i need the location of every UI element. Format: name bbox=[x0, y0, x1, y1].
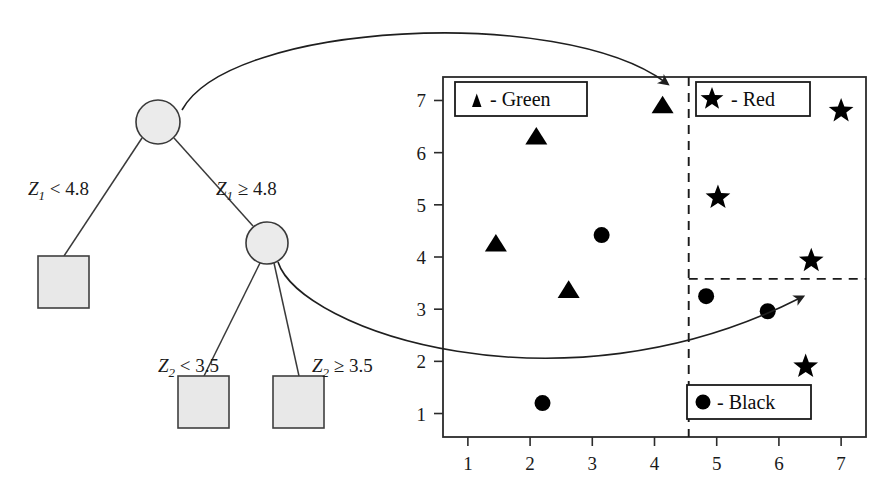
tree-leaves bbox=[38, 256, 324, 428]
figure-container: Z1 < 4.8 Z1 ≥ 4.8 Z2 < 3.5 Z2 ≥ 3.5 1234… bbox=[0, 0, 890, 497]
y-tick-label: 1 bbox=[417, 404, 427, 425]
x-axis-tick-labels: 1234567 bbox=[463, 453, 846, 474]
y-axis-tick-labels: 1234567 bbox=[417, 90, 427, 424]
x-tick-label: 5 bbox=[712, 453, 722, 474]
legend-green: - Green bbox=[455, 82, 587, 116]
point-star bbox=[829, 98, 854, 122]
circle-icon bbox=[696, 395, 711, 410]
y-tick-label: 4 bbox=[417, 247, 427, 268]
y-axis-ticks bbox=[434, 100, 443, 413]
legend-black-label: - Black bbox=[717, 391, 775, 413]
x-tick-label: 3 bbox=[588, 453, 598, 474]
legend-red-label: - Red bbox=[731, 88, 775, 110]
tree-leaf-green[interactable] bbox=[38, 256, 89, 308]
y-tick-label: 3 bbox=[417, 299, 427, 320]
point-triangle bbox=[558, 280, 580, 298]
point-triangle bbox=[525, 127, 547, 145]
legend-green-label: - Green bbox=[490, 88, 551, 110]
y-tick-label: 2 bbox=[417, 351, 427, 372]
tree-node-root[interactable] bbox=[136, 100, 180, 144]
x-axis-ticks bbox=[468, 437, 841, 446]
y-tick-label: 5 bbox=[417, 195, 427, 216]
x-tick-label: 2 bbox=[525, 453, 535, 474]
legend-black: - Black bbox=[687, 385, 811, 419]
tree-leaf-black[interactable] bbox=[178, 376, 229, 428]
decision-boundary-lines bbox=[689, 77, 866, 437]
point-circle bbox=[698, 288, 714, 304]
legend-red: - Red bbox=[696, 82, 810, 116]
x-tick-label: 6 bbox=[774, 453, 784, 474]
y-tick-label: 6 bbox=[417, 143, 427, 164]
data-point-markers bbox=[485, 96, 854, 411]
branch-label-root-right: Z1 ≥ 4.8 bbox=[216, 178, 277, 203]
tree-diagram: Z1 < 4.8 Z1 ≥ 4.8 Z2 < 3.5 Z2 ≥ 3.5 bbox=[28, 100, 373, 428]
series-black bbox=[535, 227, 776, 411]
tree-node-inner[interactable] bbox=[246, 222, 288, 264]
x-tick-label: 7 bbox=[836, 453, 846, 474]
figure-svg: Z1 < 4.8 Z1 ≥ 4.8 Z2 < 3.5 Z2 ≥ 3.5 1234… bbox=[0, 0, 890, 497]
point-circle bbox=[594, 227, 610, 243]
point-star bbox=[706, 185, 731, 209]
series-green bbox=[485, 96, 674, 298]
point-triangle bbox=[652, 96, 674, 114]
series-red bbox=[706, 98, 854, 377]
x-tick-label: 1 bbox=[463, 453, 473, 474]
y-tick-label: 7 bbox=[417, 90, 427, 111]
x-tick-label: 4 bbox=[650, 453, 660, 474]
point-triangle bbox=[485, 234, 507, 252]
point-circle bbox=[535, 395, 551, 411]
tree-leaf-red[interactable] bbox=[273, 376, 324, 428]
branch-label-root-left: Z1 < 4.8 bbox=[28, 178, 89, 203]
point-star bbox=[793, 354, 818, 378]
arrow-inner-to-horizontal-split bbox=[278, 262, 800, 358]
edge-inner-right bbox=[274, 263, 299, 376]
point-star bbox=[799, 248, 824, 272]
